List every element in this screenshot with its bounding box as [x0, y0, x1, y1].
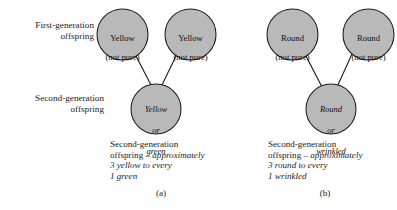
connector-line-b-right	[337, 54, 352, 87]
caption-a-line2-italic: approximately	[152, 150, 204, 160]
caption-b-line2: offspring – approximately	[268, 150, 362, 161]
parent-circle-a-left	[97, 9, 148, 60]
offspring-circle-b	[306, 84, 356, 134]
caption-panel-b: Second-generation offspring – approximat…	[268, 139, 362, 181]
caption-a-line2: offspring – approximately	[110, 150, 204, 161]
caption-a-line3: 3 yellow to every	[110, 160, 204, 171]
parent-circle-a-right	[165, 9, 216, 60]
caption-a-line4: 1 green	[110, 171, 204, 182]
panel-letter-a: (a)	[126, 188, 196, 198]
caption-a-line2-roman: offspring –	[110, 150, 152, 160]
connector-line-b-left	[305, 54, 322, 87]
caption-b-line2-roman: offspring –	[268, 150, 310, 160]
caption-b-line1: Second-generation	[268, 139, 362, 150]
offspring-circle-a	[131, 84, 181, 134]
caption-b-line2-italic: approximately	[310, 150, 362, 160]
connector-line-a-left	[135, 54, 152, 87]
parent-circle-b-right	[343, 9, 394, 60]
caption-b-line3: 3 round to every	[268, 160, 362, 171]
caption-a-line1: Second-generation	[110, 139, 204, 150]
connector-line-a-right	[161, 54, 177, 87]
panel-letter-b: (b)	[290, 188, 360, 198]
parent-circle-b-left	[267, 9, 318, 60]
punnett-inheritance-figure: First-generation offspring Second-genera…	[0, 0, 397, 210]
caption-b-line4: 1 wrinkled	[268, 171, 362, 182]
caption-panel-a: Second-generation offspring – approximat…	[110, 139, 204, 181]
